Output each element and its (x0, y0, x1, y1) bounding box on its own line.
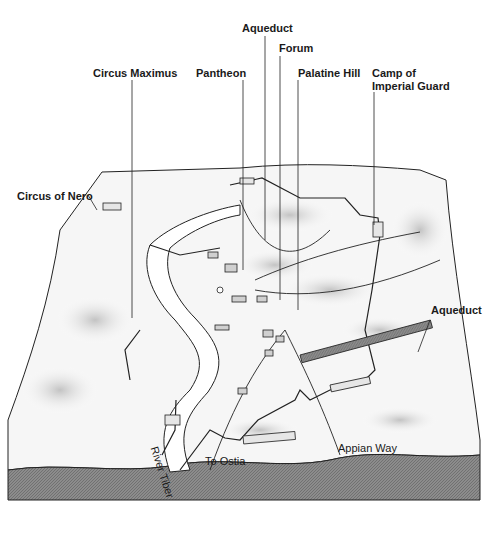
label-appian-way: Appian Way (338, 442, 397, 455)
label-palatine-hill: Palatine Hill (298, 67, 360, 80)
label-pantheon: Pantheon (196, 67, 246, 80)
label-aqueduct-right: Aqueduct (431, 304, 482, 317)
label-circus-maximus: Circus Maximus (93, 67, 177, 80)
label-forum: Forum (279, 42, 313, 55)
label-circus-of-nero: Circus of Nero (17, 190, 93, 203)
label-camp-line2: Imperial Guard (372, 80, 450, 93)
label-to-ostia: To Ostia (205, 455, 245, 468)
label-camp-line1: Camp of (372, 67, 416, 80)
label-aqueduct-top: Aqueduct (242, 22, 293, 35)
